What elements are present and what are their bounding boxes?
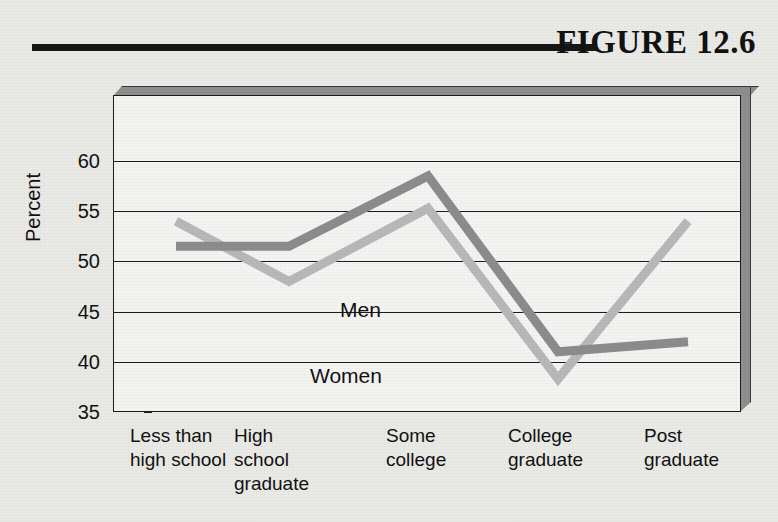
x-category-label-4: Post graduate — [644, 424, 719, 472]
x-category-label-2: Some college — [386, 424, 446, 472]
figure-rule — [32, 44, 597, 51]
plot-area: Men Women — [113, 95, 741, 412]
figure-title: FIGURE 12.6 — [556, 24, 756, 61]
x-category-label-0: Less than high school — [130, 424, 226, 472]
series-lines — [114, 96, 741, 412]
y-axis-title: Percent — [22, 143, 45, 273]
series-label-men: Men — [340, 298, 381, 322]
frame-right-bevel — [741, 86, 751, 411]
y-tick-label-60: 60 — [60, 151, 100, 171]
y-tick-label-45: 45 — [60, 302, 100, 322]
figure-page: FIGURE 12.6 354045505560 Percent Men Wom… — [0, 0, 778, 522]
y-axis-tick-labels: 354045505560 — [48, 86, 100, 418]
y-tick-label-40: 40 — [60, 352, 100, 372]
figure-header: FIGURE 12.6 — [0, 0, 778, 78]
y-tick-label-50: 50 — [60, 251, 100, 271]
series-line-women — [176, 208, 688, 379]
y-tick-label-35: 35 — [60, 402, 100, 422]
x-category-label-3: College graduate — [508, 424, 583, 472]
series-label-women: Women — [310, 364, 382, 388]
x-axis-category-labels: Less than high schoolHigh school graduat… — [104, 424, 764, 520]
chart-frame: Men Women — [104, 86, 750, 418]
y-tick-label-55: 55 — [60, 201, 100, 221]
x-category-label-1: High school graduate — [234, 424, 309, 495]
